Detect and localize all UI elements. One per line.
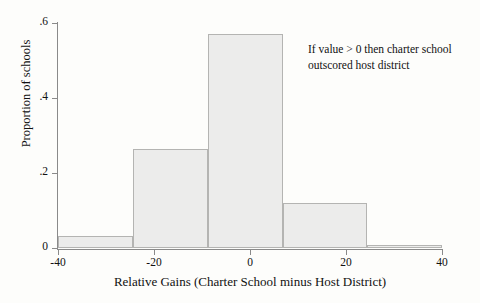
histogram-figure: 0.2.4.6 -40-2002040 Proportion of school… <box>0 0 480 303</box>
histogram-bar <box>283 203 367 248</box>
y-axis-title: Proportion of schools <box>19 4 34 184</box>
x-tick-label: -20 <box>146 256 161 268</box>
histogram-bar <box>367 245 442 248</box>
x-tick-label: -40 <box>50 256 65 268</box>
x-tick-label: 20 <box>340 256 352 268</box>
histogram-bar <box>133 149 208 248</box>
chart-annotation: If value > 0 then charter school outscor… <box>308 42 476 73</box>
x-tick-label: 0 <box>247 256 253 268</box>
annotation-line-1: If value > 0 then charter school <box>308 42 476 58</box>
x-tick-label: 40 <box>436 256 448 268</box>
histogram-bar <box>208 34 283 249</box>
annotation-line-2: outscored host district <box>308 58 476 74</box>
histogram-bar <box>58 236 133 248</box>
x-axis-title: Relative Gains (Charter School minus Hos… <box>58 274 442 290</box>
